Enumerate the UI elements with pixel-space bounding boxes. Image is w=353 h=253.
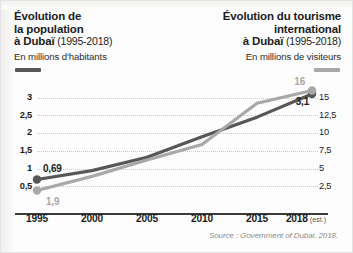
tourism-subtitle: En millions de visiteurs: [191, 51, 341, 63]
x-tick-2018: 2018 (est.): [286, 213, 326, 224]
population-start-marker: [33, 175, 41, 183]
tourism-end-marker: [308, 86, 316, 94]
tourism-title-years: (1995-2018): [283, 35, 341, 47]
tourism-title-line3: à Dubaï: [243, 35, 284, 47]
legend-block-population: Évolution de la population à Dubaï (1995…: [14, 10, 164, 72]
legend-swatch-population: [15, 68, 41, 72]
population-title-line1: Évolution de: [14, 10, 81, 22]
x-tick-1995: 1995: [26, 213, 48, 224]
population-title-line2: la population: [14, 23, 84, 35]
population-start-value: 0,69: [43, 163, 62, 174]
x-tick-2000: 2000: [81, 213, 103, 224]
population-title-line3: à Dubaï: [14, 35, 55, 47]
population-line: [37, 94, 312, 179]
tourism-title-line2: international: [274, 23, 341, 35]
x-tick-estimate-note: (est.): [308, 215, 326, 224]
chart-header: Évolution de la population à Dubaï (1995…: [1, 10, 353, 72]
population-subtitle: En millions d'habitants: [14, 51, 164, 63]
legend-block-tourism: Évolution du tourisme international à Du…: [191, 10, 341, 72]
source-note: Source : Government of Dubai, 2018.: [209, 231, 338, 240]
page-top-shading: [1, 1, 353, 10]
tourism-end-value: 16: [294, 76, 305, 87]
tourism-line: [37, 91, 312, 191]
tourism-title: Évolution du tourisme international à Du…: [191, 10, 341, 48]
tourism-title-line1: Évolution du tourisme: [223, 10, 341, 22]
plot-area: 0,511,522,53 2,557,51012,515 0,691,9163,…: [1, 79, 353, 211]
x-tick-2010: 2010: [191, 213, 213, 224]
x-tick-2005: 2005: [136, 213, 158, 224]
tourism-start-value: 1,9: [46, 196, 59, 207]
x-tick-2015: 2015: [246, 213, 268, 224]
x-axis: 199520002005201020152018 (est.): [1, 213, 353, 229]
population-title: Évolution de la population à Dubaï (1995…: [14, 10, 164, 48]
legend-swatch-tourism: [314, 68, 340, 72]
population-end-value: 3,1: [296, 96, 309, 107]
tourism-start-marker: [33, 186, 41, 194]
population-title-years: (1995-2018): [55, 35, 113, 47]
chart-card: Évolution de la population à Dubaï (1995…: [0, 0, 353, 253]
